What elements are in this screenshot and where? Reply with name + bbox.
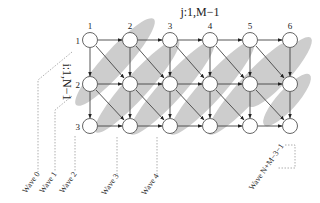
wave-label: Wave 3 xyxy=(99,172,120,197)
wave-label: Wave 4 xyxy=(139,172,160,197)
column-number: 5 xyxy=(248,21,253,31)
row-numbers: 1 2 3 xyxy=(76,36,81,132)
row-number: 1 xyxy=(76,36,81,46)
column-numbers: 1 2 3 4 5 6 xyxy=(88,21,293,31)
node xyxy=(283,33,298,48)
wave-label: Wave 2 xyxy=(57,170,78,195)
column-number: 4 xyxy=(208,21,213,31)
column-number: 2 xyxy=(128,21,133,31)
column-number: 3 xyxy=(168,21,173,31)
node xyxy=(83,77,98,92)
node xyxy=(283,77,298,92)
column-number: 1 xyxy=(88,21,93,31)
wave-labels: Wave 0 Wave 1 Wave 2 Wave 3 Wave 4 Wave … xyxy=(20,142,285,197)
column-number: 6 xyxy=(288,21,293,31)
node xyxy=(283,119,298,134)
row-number: 3 xyxy=(76,122,81,132)
node xyxy=(203,77,218,92)
wavefront-diagram: 1 2 3 4 5 6 1 2 3 j:1,M−1 i:1,N−1 Wave 0… xyxy=(0,0,320,203)
node xyxy=(163,33,178,48)
node xyxy=(243,33,258,48)
node xyxy=(123,119,138,134)
node xyxy=(163,119,178,134)
wave-label: Wave 1 xyxy=(37,170,58,195)
node xyxy=(243,119,258,134)
node xyxy=(243,77,258,92)
node xyxy=(203,33,218,48)
node xyxy=(83,33,98,48)
wave-label: Wave N+M−3−1 xyxy=(247,142,286,192)
row-axis-label: i:1,N−1 xyxy=(60,63,74,100)
node xyxy=(203,119,218,134)
node xyxy=(163,77,178,92)
node xyxy=(123,33,138,48)
row-number: 2 xyxy=(76,80,81,90)
wave-bands xyxy=(67,11,319,142)
node xyxy=(123,77,138,92)
column-axis-label: j:1,M−1 xyxy=(179,5,219,19)
node xyxy=(83,119,98,134)
